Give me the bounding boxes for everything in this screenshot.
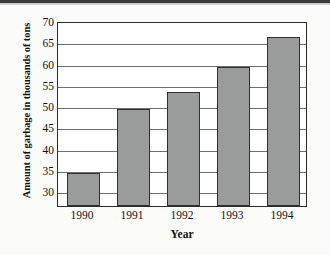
x-axis-tick-labels: 19901991199219931994	[57, 209, 307, 227]
x-tick-label: 1991	[121, 209, 144, 221]
bars-group	[58, 23, 306, 206]
bar-1992	[167, 92, 200, 206]
bar-chart-figure: Amount of garbage in thousands of tons 3…	[0, 0, 330, 255]
x-tick-label: 1994	[271, 209, 294, 221]
bar-1994	[267, 37, 300, 206]
y-axis-tick-labels: 303540455055606570	[26, 0, 54, 255]
bar-1993	[217, 67, 250, 206]
bar-1991	[117, 109, 150, 206]
y-tick-label: 40	[26, 144, 54, 156]
x-axis-title: Year	[57, 228, 307, 240]
bar-1990	[67, 173, 100, 206]
y-tick-label: 50	[26, 101, 54, 113]
y-tick-label: 60	[26, 59, 54, 71]
y-tick-label: 70	[26, 16, 54, 28]
y-tick-label: 30	[26, 186, 54, 198]
y-tick-label: 65	[26, 37, 54, 49]
y-tick-label: 35	[26, 165, 54, 177]
y-tick-label: 45	[26, 122, 54, 134]
y-tick-label: 55	[26, 80, 54, 92]
x-tick-label: 1993	[221, 209, 244, 221]
x-tick-label: 1992	[171, 209, 194, 221]
x-tick-label: 1990	[71, 209, 94, 221]
plot-area	[57, 22, 307, 207]
